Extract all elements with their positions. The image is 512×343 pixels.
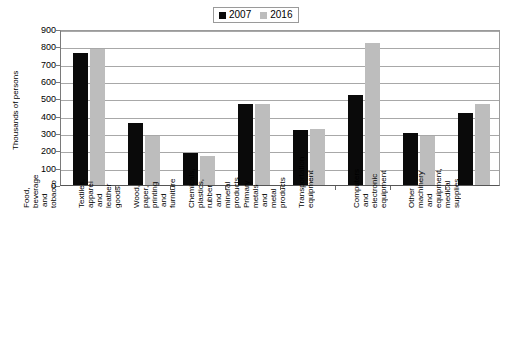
y-tick-label: 700 bbox=[30, 61, 56, 70]
bar-2007[interactable] bbox=[128, 123, 143, 185]
bar-group bbox=[226, 29, 281, 185]
bar-group bbox=[171, 29, 226, 185]
y-tick-label: 800 bbox=[30, 43, 56, 52]
bar-group bbox=[61, 29, 116, 185]
y-tick-label: 100 bbox=[30, 165, 56, 174]
legend-entry-2007[interactable]: 2007 bbox=[219, 10, 251, 20]
bar-chart: 20072016 Thousands of persons 0100200300… bbox=[0, 0, 512, 343]
y-tick-label: 500 bbox=[30, 95, 56, 104]
bar-2016[interactable] bbox=[365, 43, 380, 185]
bar-group bbox=[446, 29, 501, 185]
y-axis-title: Thousands of persons bbox=[8, 36, 22, 184]
x-tick-mark bbox=[335, 186, 336, 190]
bar-2016[interactable] bbox=[145, 136, 160, 185]
bar-2016[interactable] bbox=[255, 104, 270, 185]
y-tick-label: 200 bbox=[30, 147, 56, 156]
plot-area bbox=[60, 30, 500, 186]
y-tick-label: 900 bbox=[30, 26, 56, 35]
bar-2016[interactable] bbox=[475, 104, 490, 185]
legend-label: 2007 bbox=[229, 10, 251, 20]
bar-2016[interactable] bbox=[90, 49, 105, 185]
y-tick-label: 400 bbox=[30, 113, 56, 122]
bar-2007[interactable] bbox=[458, 113, 473, 185]
legend-swatch-icon bbox=[260, 12, 267, 19]
y-tick-label: 300 bbox=[30, 130, 56, 139]
legend-entry-2016[interactable]: 2016 bbox=[260, 10, 292, 20]
bar-group bbox=[336, 29, 391, 185]
x-tick-mark bbox=[390, 186, 391, 190]
y-axis-ticks: 0100200300400500600700800900 bbox=[25, 30, 56, 186]
bar-group bbox=[281, 29, 336, 185]
bar-group bbox=[391, 29, 446, 185]
chart-legend: 20072016 bbox=[213, 7, 299, 23]
legend-label: 2016 bbox=[270, 10, 292, 20]
bar-group bbox=[116, 29, 171, 185]
legend-swatch-icon bbox=[219, 12, 226, 19]
x-category-label: Other machinery and equipment, medical s… bbox=[407, 194, 512, 208]
y-tick-label: 600 bbox=[30, 78, 56, 87]
bar-2007[interactable] bbox=[73, 53, 88, 185]
bar-2007[interactable] bbox=[238, 104, 253, 185]
